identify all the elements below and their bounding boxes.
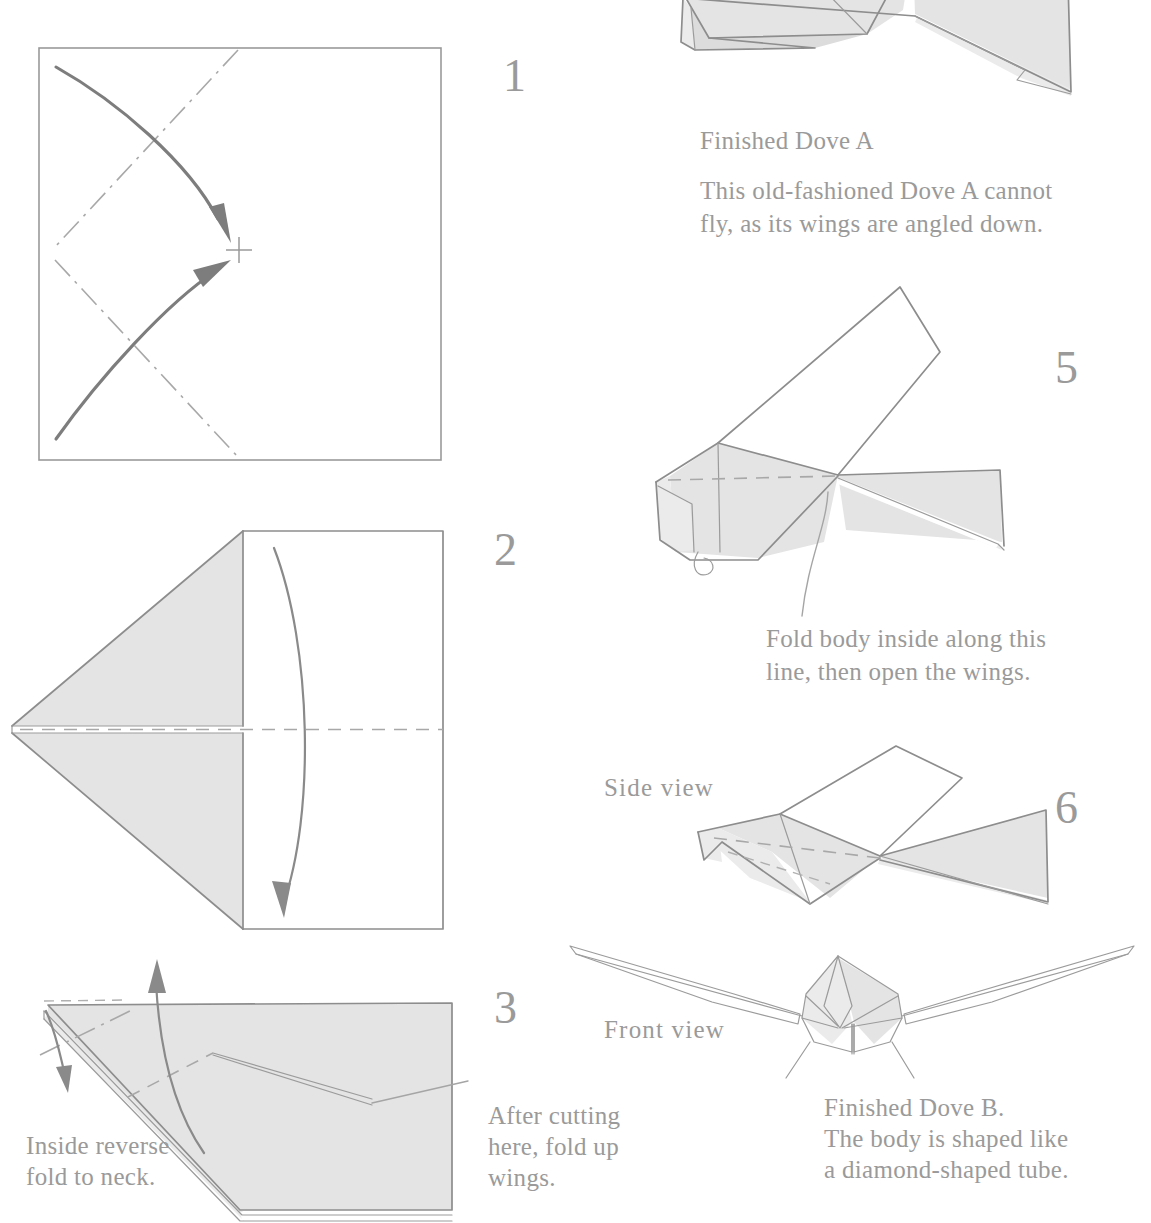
step-2-diagram [0,526,460,936]
step-6-diagram [680,752,1100,932]
step-1-diagram [38,47,443,462]
after-cutting-caption: After cutting here, fold up wings. [488,1100,620,1193]
origami-instruction-page: 1 2 [0,0,1151,1223]
step-number-5: 5 [1055,345,1078,391]
finished-dove-a-body: This old-fashioned Dove A cannot fly, as… [700,174,1053,240]
step-number-1: 1 [503,53,526,99]
inside-reverse-fold-caption: Inside reverse fold to neck. [26,1130,170,1192]
finished-dove-a-title: Finished Dove A [700,124,874,157]
finished-dove-a-diagram [665,0,1085,128]
fold-body-note: Fold body inside along this line, then o… [766,622,1046,688]
finished-dove-b-caption: Finished Dove B. The body is shaped like… [824,1092,1069,1185]
front-view-diagram [562,932,1142,1092]
step-number-6: 6 [1055,785,1078,831]
step-number-2: 2 [494,527,517,573]
step-number-3: 3 [494,985,517,1031]
step-5-diagram [660,280,1090,610]
